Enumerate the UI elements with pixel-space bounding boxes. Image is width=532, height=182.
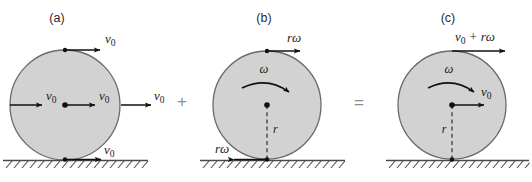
panel-b-bottom-velocity-label: rω: [215, 141, 229, 156]
panel-c-omega-label: ω: [445, 62, 454, 76]
panel-c-ground: [386, 161, 530, 169]
panel-c-top-velocity-label: v0 + rω: [455, 29, 495, 46]
panel-b: (b) r: [200, 11, 345, 168]
rolling-motion-diagram: (a): [0, 0, 532, 182]
plus-operator: +: [177, 92, 187, 111]
panel-c-label: (c): [441, 11, 456, 25]
panel-b-omega-label: ω: [260, 62, 269, 76]
panel-a-ground: [3, 161, 148, 169]
panel-a-top-velocity-label: v0: [105, 31, 116, 48]
panel-a-label: (a): [49, 11, 64, 25]
panel-a-bottom-velocity-label: v0: [104, 142, 115, 159]
panel-b-center-dot: [264, 102, 270, 108]
panel-b-radius-label: r: [273, 122, 278, 136]
panel-b-label: (b): [256, 11, 271, 25]
panel-b-top-velocity-label: rω: [287, 30, 301, 45]
equals-operator: =: [354, 93, 364, 112]
panel-c-radius-label: r: [442, 122, 447, 136]
figure-canvas: (a): [0, 0, 532, 182]
panel-c-contact-dot: [450, 157, 454, 161]
panel-b-ground: [200, 161, 345, 169]
panel-c: (c) r: [386, 11, 530, 168]
panel-a-right-velocity-label: v0: [154, 88, 165, 105]
panel-a: (a): [3, 11, 165, 168]
